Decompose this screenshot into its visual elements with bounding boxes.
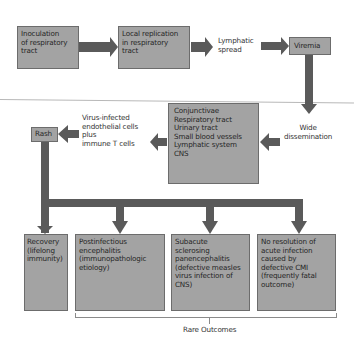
rash-box: Rash	[31, 127, 58, 142]
wide-dissemination-label: Wide dissemination	[284, 124, 332, 141]
viremia-box: Viremia	[289, 37, 331, 55]
no-resolution-box: No resolution of acute infection caused …	[257, 234, 336, 311]
rare-outcomes-label: Rare Outcomes	[183, 326, 236, 335]
arrow-down-icon	[301, 104, 317, 114]
rare-outcomes-bracket-tick	[209, 318, 210, 324]
local-replication-box: Local replication in respiratory tract	[118, 26, 190, 69]
sspe-box: Subacute sclerosing panencephalitis (def…	[171, 234, 250, 311]
arrow-left-icon	[260, 133, 280, 151]
postinfectious-encephalitis-box: Postinfectious encephalitis (immunopatho…	[75, 234, 165, 311]
arrow-right-icon	[79, 37, 118, 57]
arrow-left-icon	[150, 133, 167, 151]
measles-pathogenesis-diagram: Inoculation of respiratory tract Local r…	[0, 0, 354, 349]
lymphatic-spread-label: Lymphatic spread	[218, 37, 254, 54]
arrow-down-icon	[202, 221, 218, 234]
recovery-box: Recovery (lifelong immunity)	[24, 234, 68, 311]
inoculation-box: Inoculation of respiratory tract	[17, 26, 79, 69]
arrow-down-icon	[291, 221, 307, 234]
arrow-down-icon	[37, 226, 53, 234]
arrow-right-icon	[261, 37, 289, 55]
arrow-down-icon	[112, 221, 128, 234]
rare-outcomes-bracket	[75, 313, 337, 318]
dissemination-sites-box: Conjunctivae Respiratory tract Urinary t…	[168, 103, 259, 184]
arrow-left-icon	[58, 125, 79, 143]
arrow-right-icon	[191, 37, 213, 57]
virus-infected-cells-label: Virus-infected endothelial cells plus im…	[82, 114, 138, 148]
